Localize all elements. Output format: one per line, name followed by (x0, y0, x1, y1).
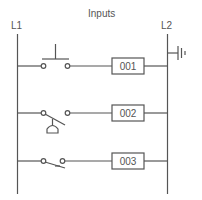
output-003: 003 (120, 156, 137, 167)
ladder-diagram: 001 002 003 (0, 0, 202, 200)
output-001: 001 (120, 61, 137, 72)
rung-2 (18, 105, 168, 133)
output-002: 002 (120, 108, 137, 119)
ground-icon (168, 46, 186, 60)
pushbutton-icon (42, 44, 69, 59)
foot-switch-icon (45, 114, 65, 133)
rung-1 (18, 44, 168, 74)
rung-3 (18, 153, 168, 169)
